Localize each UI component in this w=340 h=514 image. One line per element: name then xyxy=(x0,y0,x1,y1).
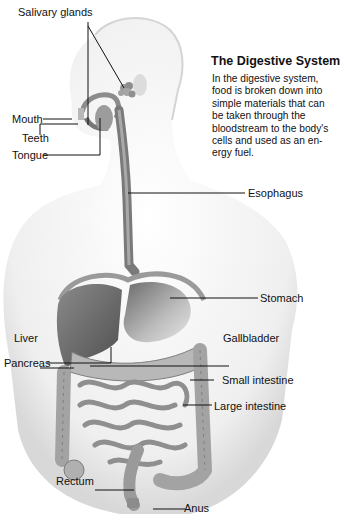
label-esophagus: Esophagus xyxy=(248,187,303,199)
diagram-title: The Digestive System xyxy=(211,54,340,68)
anus xyxy=(127,498,139,508)
label-stomach: Stomach xyxy=(260,292,303,304)
description-line: food is broken down into xyxy=(212,85,312,97)
description-line: ergy fuel. xyxy=(212,147,312,159)
label-small-intestine: Small intestine xyxy=(222,374,294,386)
label-anus: Anus xyxy=(184,502,209,514)
label-salivary-glands: Salivary glands xyxy=(18,6,93,18)
label-teeth: Teeth xyxy=(22,132,49,144)
description-line: simple materials that can xyxy=(212,98,312,110)
label-large-intestine: Large intestine xyxy=(214,400,286,412)
label-liver: Liver xyxy=(14,332,38,344)
label-rectum: Rectum xyxy=(56,475,94,487)
diagram-description: In the digestive system, food is broken … xyxy=(212,73,312,160)
description-line: In the digestive system, xyxy=(212,73,312,85)
label-mouth: Mouth xyxy=(12,113,43,125)
description-line: bloodstream to the body's xyxy=(212,123,312,135)
description-line: be taken through the xyxy=(212,110,312,122)
label-gallbladder: Gallbladder xyxy=(223,332,279,344)
label-tongue: Tongue xyxy=(12,149,48,161)
label-pancreas: Pancreas xyxy=(4,357,50,369)
description-line: cells and used as an en- xyxy=(212,135,312,147)
